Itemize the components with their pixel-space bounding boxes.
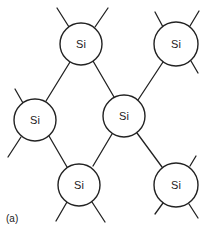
atoms: Si Si Si Si Si Si (14, 22, 198, 207)
atom-label: Si (171, 38, 181, 50)
bond-top-right-to-center (138, 62, 163, 100)
dangling-bond (189, 204, 198, 218)
bond-top-center-to-center (93, 61, 114, 97)
atom-label: Si (119, 110, 129, 122)
dangling-bond (92, 202, 105, 222)
dangling-bond (191, 61, 198, 73)
atom-label: Si (171, 179, 181, 191)
dangling-bond (15, 89, 23, 103)
bond-mid-left-to-bottom-center (49, 136, 67, 167)
dangling-bond (155, 203, 163, 214)
dangling-bond (190, 156, 196, 166)
si-atom-mid-left: Si (14, 99, 56, 141)
dangling-bond (57, 8, 69, 27)
dangling-bond (56, 202, 67, 221)
atom-label: Si (74, 179, 84, 191)
bond-top-center-to-mid-left (46, 62, 70, 101)
bond-center-to-bottom-right (137, 133, 162, 167)
dangling-bond (8, 137, 21, 157)
dangling-bond (190, 11, 199, 26)
silicon-lattice-diagram: Si Si Si Si Si Si (a) (0, 0, 209, 234)
si-atom-bottom-center: Si (58, 164, 100, 206)
si-atom-bottom-right: Si (154, 163, 198, 207)
si-atom-center: Si (103, 95, 145, 137)
si-atom-top-center: Si (60, 23, 102, 65)
figure-caption: (a) (6, 213, 18, 224)
dangling-bond (95, 8, 108, 27)
si-atom-top-right: Si (154, 22, 198, 66)
bond-center-to-bottom-center (93, 134, 112, 166)
dangling-bond (155, 12, 163, 27)
atom-label: Si (30, 114, 40, 126)
atom-label: Si (76, 38, 86, 50)
